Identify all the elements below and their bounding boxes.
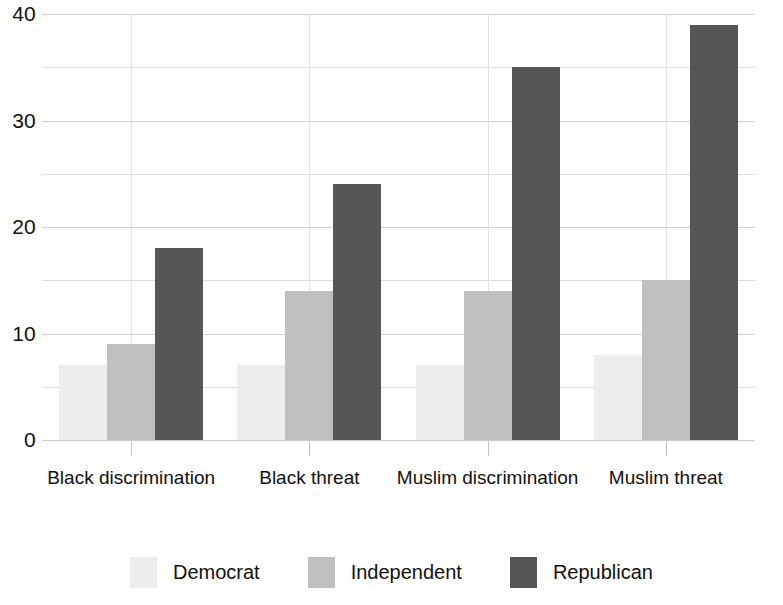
- bar-chart: 010203040 Black discriminationBlack thre…: [0, 0, 783, 605]
- chart-legend: DemocratIndependentRepublican: [0, 552, 783, 592]
- x-axis-tick: [666, 441, 667, 456]
- bar: [464, 291, 512, 440]
- y-axis-tick-label: 10: [2, 323, 36, 344]
- y-axis-tick-label: 30: [2, 110, 36, 131]
- bars-layer: [42, 14, 755, 440]
- x-axis-tick: [131, 441, 132, 456]
- legend-swatch-icon: [510, 557, 537, 588]
- bar: [237, 365, 285, 440]
- legend-label: Republican: [553, 561, 653, 583]
- bar: [155, 248, 203, 440]
- y-axis: 010203040: [0, 0, 36, 605]
- legend-label: Independent: [351, 561, 462, 583]
- bar: [107, 344, 155, 440]
- x-axis-tick-label: Black threat: [259, 466, 359, 490]
- legend-item: Independent: [308, 557, 462, 588]
- legend-swatch-icon: [130, 557, 157, 588]
- x-axis-tick-label: Muslim discrimination: [397, 466, 579, 490]
- legend-item: Democrat: [130, 557, 260, 588]
- legend-label: Democrat: [173, 561, 260, 583]
- x-axis-tick: [488, 441, 489, 456]
- bar: [59, 365, 107, 440]
- bar: [690, 25, 738, 440]
- bar: [512, 67, 560, 440]
- bar: [416, 365, 464, 440]
- bar: [594, 355, 642, 440]
- x-axis-tick-label: Muslim threat: [609, 466, 723, 490]
- y-axis-tick-label: 20: [2, 216, 36, 237]
- bar: [642, 280, 690, 440]
- x-axis-tick-label: Black discrimination: [47, 466, 215, 490]
- bar: [333, 184, 381, 440]
- legend-swatch-icon: [308, 557, 335, 588]
- x-axis-tick: [309, 441, 310, 456]
- bar: [285, 291, 333, 440]
- x-axis-baseline: [42, 440, 755, 441]
- legend-item: Republican: [510, 557, 653, 588]
- y-axis-tick-label: 0: [2, 429, 36, 450]
- y-axis-tick-label: 40: [2, 3, 36, 24]
